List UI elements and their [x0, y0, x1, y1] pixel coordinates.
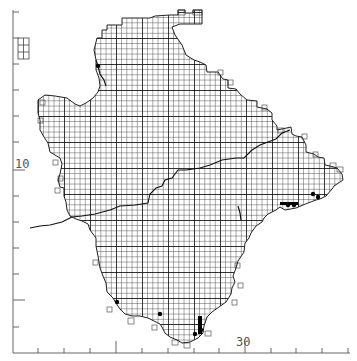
north-arrow-box: [18, 38, 29, 59]
record-marker: [115, 300, 119, 304]
distribution-map: [0, 0, 357, 361]
x-axis-label-30: 30: [236, 336, 250, 348]
record-marker: [311, 192, 315, 196]
recording-grid: [30, 0, 350, 350]
record-marker: [193, 332, 197, 336]
record-marker: [316, 195, 320, 199]
record-marker: [158, 312, 162, 316]
y-axis-label-10: 10: [15, 158, 29, 170]
x-axis-ticks: [38, 341, 348, 353]
record-marker: [96, 64, 100, 68]
